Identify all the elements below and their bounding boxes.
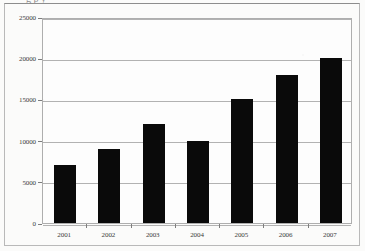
y-axis-tick-mark bbox=[38, 224, 42, 225]
x-axis-tick-label: 2002 bbox=[102, 231, 116, 239]
bar-2003 bbox=[143, 124, 165, 223]
y-axis-labels: 0500010000150002000025000 bbox=[0, 18, 36, 224]
x-axis-tick-mark bbox=[86, 224, 87, 228]
x-axis-tick-label: 2001 bbox=[57, 231, 71, 239]
gridline bbox=[43, 19, 351, 20]
y-axis-tick-label: 10000 bbox=[19, 138, 36, 146]
y-axis-tick-mark bbox=[38, 141, 42, 142]
bar-2004 bbox=[187, 141, 209, 223]
scanned-page: g p y 0500010000150002000025000 20012002… bbox=[0, 0, 365, 251]
x-axis-tick-label: 2004 bbox=[190, 231, 204, 239]
gridline bbox=[43, 60, 351, 61]
y-axis-tick-label: 0 bbox=[33, 220, 36, 228]
y-axis-tick-mark bbox=[38, 59, 42, 60]
y-axis-tick-label: 15000 bbox=[19, 96, 36, 104]
bar-2007 bbox=[320, 58, 342, 223]
x-axis-tick-mark bbox=[263, 224, 264, 228]
bar-2001 bbox=[54, 165, 76, 223]
bar-2002 bbox=[98, 149, 120, 223]
y-axis-tick-mark bbox=[38, 18, 42, 19]
bar-2005 bbox=[231, 99, 253, 223]
bar-2006 bbox=[276, 75, 298, 223]
x-axis-tick-mark bbox=[219, 224, 220, 228]
x-axis-tick-label: 2005 bbox=[234, 231, 248, 239]
gridline bbox=[43, 225, 351, 226]
plot-area bbox=[42, 18, 352, 224]
y-axis-tick-label: 25000 bbox=[19, 14, 36, 22]
bar-chart: 0500010000150002000025000 20012002200320… bbox=[0, 0, 365, 251]
x-axis-tick-label: 2007 bbox=[323, 231, 337, 239]
x-axis-tick-label: 2003 bbox=[146, 231, 160, 239]
gridline bbox=[43, 101, 351, 102]
y-axis-tick-label: 5000 bbox=[22, 179, 36, 187]
x-axis-tick-label: 2006 bbox=[279, 231, 293, 239]
x-axis-tick-mark bbox=[175, 224, 176, 228]
y-axis-tick-mark bbox=[38, 182, 42, 183]
x-axis-tick-mark bbox=[131, 224, 132, 228]
x-axis-tick-mark bbox=[308, 224, 309, 228]
y-axis-tick-mark bbox=[38, 100, 42, 101]
y-axis-tick-label: 20000 bbox=[19, 55, 36, 63]
